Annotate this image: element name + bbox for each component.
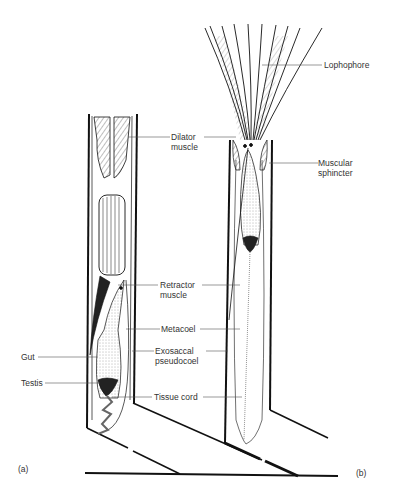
label-exosaccal-pseudocoel-2: pseudocoel <box>155 356 198 366</box>
label-retractor-muscle-2: muscle <box>160 290 187 300</box>
specimen-b <box>205 24 322 444</box>
label-retractor-muscle: Retractor <box>160 280 195 290</box>
diagram-drawing <box>0 0 394 499</box>
label-muscular-sphincter: Muscular <box>318 158 352 168</box>
label-lophophore: Lophophore <box>324 60 369 70</box>
base-lines <box>85 403 338 476</box>
label-dilator-muscle: Dilator <box>171 132 196 142</box>
label-testis: Testis <box>21 378 43 388</box>
label-metacoel: Metacoel <box>161 324 196 334</box>
label-muscular-sphincter-2: sphincter <box>318 168 353 178</box>
panel-label-a: (a) <box>18 464 28 474</box>
label-exosaccal-pseudocoel: Exosaccal <box>155 346 194 356</box>
label-tissue-cord: Tissue cord <box>154 392 198 402</box>
specimen-a <box>87 114 137 434</box>
label-gut: Gut <box>21 352 35 362</box>
label-dilator-muscle-2: muscle <box>171 142 198 152</box>
panel-label-b: (b) <box>356 468 366 478</box>
